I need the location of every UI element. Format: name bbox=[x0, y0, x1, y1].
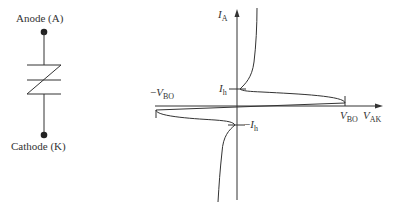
ih-label-sub: h bbox=[223, 88, 227, 97]
negative-branch bbox=[156, 110, 235, 202]
x-axis-arrow-icon bbox=[375, 104, 383, 109]
y-axis-label: IA bbox=[218, 8, 227, 23]
neg-ih-sub: h bbox=[254, 124, 258, 133]
neg-vbo-main: V bbox=[156, 86, 163, 98]
y-axis-arrow-icon bbox=[235, 9, 240, 17]
diac-diagram bbox=[0, 0, 402, 208]
ih-label: Ih bbox=[219, 82, 227, 97]
neg-ih-label: −Ih bbox=[244, 118, 258, 133]
iv-curve bbox=[156, 8, 345, 202]
vbo-main: V bbox=[340, 109, 347, 121]
x-axis-label-sub: AK bbox=[370, 115, 382, 124]
axes bbox=[155, 9, 383, 200]
x-axis-label-main: V bbox=[363, 109, 370, 121]
neg-vbo-label: −VBO bbox=[150, 86, 174, 101]
cathode-label: Cathode (K) bbox=[11, 140, 66, 152]
neg-vbo-sub: BO bbox=[163, 92, 174, 101]
vbo-sub: BO bbox=[347, 115, 358, 124]
cathode-terminal-dot bbox=[41, 132, 48, 139]
x-axis-label: VAK bbox=[363, 109, 381, 124]
anode-label: Anode (A) bbox=[16, 12, 63, 24]
y-axis-label-sub: A bbox=[222, 14, 228, 23]
diac-symbol bbox=[27, 29, 61, 139]
vbo-label: VBO bbox=[340, 109, 358, 124]
positive-branch bbox=[240, 8, 345, 103]
